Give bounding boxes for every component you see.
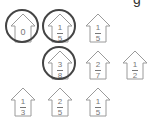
house-1-5: 15 [83, 86, 113, 118]
fraction: 15 [83, 98, 113, 117]
house-1-2: 12 [120, 49, 150, 81]
cropped-heading-text: g [133, 0, 141, 7]
answer-circle [5, 9, 39, 43]
fraction: 25 [45, 98, 75, 117]
house-2-7: 27 [83, 49, 113, 81]
fraction: 13 [8, 98, 38, 117]
house-1-3: 13 [8, 86, 38, 118]
fraction: 27 [83, 61, 113, 80]
house-2-5: 25 [45, 86, 75, 118]
house-1-5: 15 [83, 12, 113, 44]
fraction: 15 [83, 24, 113, 43]
answer-circle [42, 9, 76, 43]
answer-circle [42, 46, 76, 80]
fraction: 12 [120, 61, 150, 80]
